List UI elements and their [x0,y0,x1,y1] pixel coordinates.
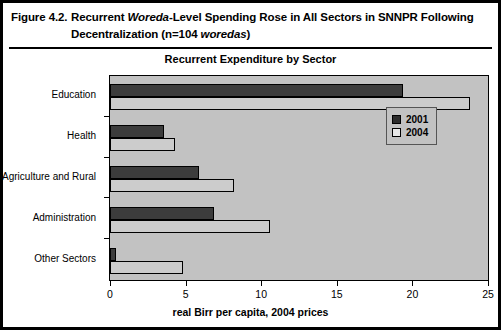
caption-divider [9,47,492,49]
y-axis-tick [104,157,109,158]
bar-education-2001 [110,84,403,97]
legend-swatch-2004-icon [392,128,401,137]
bar-health-2004 [110,138,175,151]
chart-title: Recurrent Expenditure by Sector [3,53,498,65]
caption-line-2-post: ) [247,28,251,40]
y-axis-label-health: Health [0,131,96,142]
x-axis-tick-label-15: 15 [331,288,343,300]
y-axis-tick [104,197,109,198]
x-axis-tick-15 [337,281,338,286]
y-axis-tick [104,238,109,239]
caption-line-2: Decentralization (n=104 woredas) [11,26,490,43]
x-axis-tick-5 [186,281,187,286]
plot-area [109,75,489,281]
legend-item-2004: 2004 [392,127,428,138]
x-axis-tick-20 [412,281,413,286]
figure-container: Figure 4.2.Recurrent Woreda-Level Spendi… [0,0,501,330]
x-axis-tick-label-20: 20 [407,288,419,300]
x-axis-tick-10 [261,281,262,286]
legend-label-2001: 2001 [406,114,428,125]
caption-line-1-italic: Woreda [128,11,169,23]
legend-item-2001: 2001 [392,114,428,125]
caption-line-1-pre: Recurrent [71,11,128,23]
y-axis-label-other-sectors: Other Sectors [0,253,96,264]
figure-number: Figure 4.2. [11,9,71,26]
bar-administration-2004 [110,220,270,233]
x-axis-tick-25 [488,281,489,286]
chart-legend: 2001 2004 [386,107,437,145]
x-axis-tick-label-10: 10 [255,288,267,300]
y-axis-label-administration: Administration [0,212,96,223]
bar-agriculture-and-rural-2004 [110,179,234,192]
y-axis-label-agriculture-and-rural: Agriculture and Rural [0,171,96,182]
caption-line-2-pre: Decentralization (n=104 [71,28,201,40]
bar-agriculture-and-rural-2001 [110,166,199,179]
caption-line-1: Figure 4.2.Recurrent Woreda-Level Spendi… [11,9,490,26]
y-axis-label-education: Education [0,90,96,101]
legend-label-2004: 2004 [406,127,428,138]
caption-line-1-post: -Level Spending Rose in All Sectors in S… [169,11,474,23]
figure-caption: Figure 4.2.Recurrent Woreda-Level Spendi… [11,9,490,42]
x-axis-tick-0 [110,281,111,286]
x-axis-tick-label-25: 25 [482,288,494,300]
x-axis-tick-label-0: 0 [107,288,113,300]
bar-other-sectors-2001 [110,248,116,261]
bar-health-2001 [110,125,164,138]
caption-line-2-italic: woredas [201,28,247,40]
legend-swatch-2001-icon [392,115,401,124]
bar-administration-2001 [110,207,214,220]
x-axis-title: real Birr per capita, 2004 prices [3,306,498,318]
x-axis-tick-label-5: 5 [183,288,189,300]
y-axis-tick [104,116,109,117]
bar-other-sectors-2004 [110,261,183,274]
